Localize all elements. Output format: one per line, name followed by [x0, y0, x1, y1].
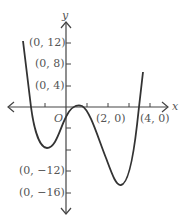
label-y8: (0, 8) — [35, 57, 65, 70]
origin-label: O — [54, 112, 63, 125]
x-axis-label: x — [172, 100, 179, 113]
label-yn12: (0, −12) — [19, 164, 65, 177]
label-y12: (0, 12) — [29, 36, 66, 49]
label-x4: (4, 0) — [140, 112, 170, 125]
label-y4: (0, 4) — [35, 79, 65, 92]
function-graph: y x O (0, 12) (0, 8) (0, 4) (2, 0) (4, 0… — [0, 0, 182, 220]
y-axis-label: y — [61, 9, 69, 22]
y-ticks — [66, 43, 71, 193]
label-x2: (2, 0) — [96, 112, 126, 125]
label-yn16: (0, −16) — [19, 186, 65, 199]
